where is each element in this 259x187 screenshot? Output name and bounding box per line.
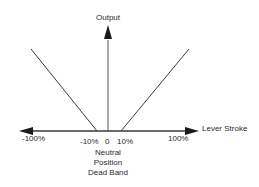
annotation-position: Position (88, 158, 128, 168)
y-axis-up-arrow-icon (104, 25, 112, 39)
tick-label-pos-10: 10% (117, 137, 133, 147)
x-axis-label: Lever Stroke (202, 124, 247, 134)
y-axis-label: Output (96, 13, 120, 23)
output-curve-left (31, 49, 97, 131)
diagram-canvas (0, 0, 259, 187)
output-curve-right (121, 49, 189, 131)
annotation-neutral: Neutral (88, 148, 128, 158)
annotation-dead-band: Dead Band (83, 168, 133, 178)
tick-label-neg-10: -10% (80, 137, 99, 147)
tick-label-zero: 0 (105, 137, 109, 147)
tick-label-pos-100: 100% (168, 134, 188, 144)
tick-label-neg-100: -100% (22, 134, 45, 144)
